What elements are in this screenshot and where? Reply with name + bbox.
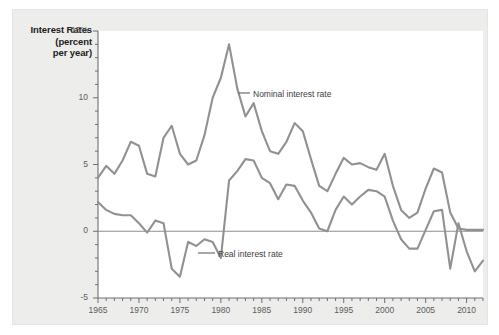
y-tick-label: 10: [58, 92, 88, 102]
x-tick-label: 1975: [162, 305, 198, 315]
y-tick-label: 15%: [58, 25, 88, 35]
data-series-group: [98, 44, 483, 276]
x-tick-label: 2005: [408, 305, 444, 315]
y-tick-label: 0: [58, 225, 88, 235]
legend-label-nominal: Nominal interest rate: [253, 89, 331, 99]
axes-group: [93, 31, 483, 303]
x-tick-label: 1965: [80, 305, 116, 315]
x-tick-label: 1985: [244, 305, 280, 315]
series-line-nominal: [98, 44, 483, 230]
legend-label-real: Real interest rate: [218, 249, 283, 259]
x-tick-label: 1970: [121, 305, 157, 315]
x-tick-label: 2000: [367, 305, 403, 315]
chart-figure: Interest Rates (percent per year) Nomina…: [0, 0, 499, 335]
y-tick-label: 5: [58, 159, 88, 169]
y-tick-label: -5: [58, 292, 88, 302]
x-tick-label: 1995: [326, 305, 362, 315]
x-tick-label: 1990: [285, 305, 321, 315]
x-tick-label: 2010: [449, 305, 485, 315]
x-tick-label: 1980: [203, 305, 239, 315]
